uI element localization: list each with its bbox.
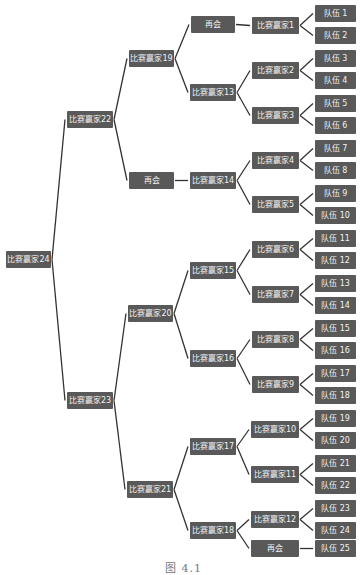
- team-node-t7: 队伍 7: [315, 140, 356, 157]
- bye-node-bye2: 再会: [191, 16, 235, 33]
- team-node-t15: 队伍 15: [315, 320, 356, 337]
- match-winner-node-w23: 比赛赢家23: [67, 392, 113, 409]
- match-winner-node-w19: 比赛赢家19: [129, 50, 174, 67]
- match-winner-node-w7: 比赛赢家7: [252, 286, 299, 303]
- team-node-t9: 队伍 9: [315, 185, 356, 202]
- match-winner-node-w11: 比赛赢家11: [251, 466, 299, 483]
- team-node-t10: 队伍 10: [315, 207, 356, 224]
- team-node-t1: 队伍 1: [315, 5, 356, 22]
- team-node-t6: 队伍 6: [315, 117, 356, 134]
- connector-w21-w18: [174, 490, 188, 531]
- connector-w18-w12: [237, 520, 249, 531]
- match-winner-node-w21: 比赛赢家21: [127, 481, 173, 498]
- team-node-t3: 队伍 3: [315, 50, 356, 67]
- match-winner-node-w2: 比赛赢家2: [252, 62, 299, 79]
- team-node-t17: 队伍 17: [315, 365, 356, 382]
- connector-w11-t21: [300, 464, 313, 475]
- team-node-t22: 队伍 22: [315, 477, 356, 494]
- team-node-t12: 队伍 12: [315, 252, 356, 269]
- team-node-t8: 队伍 8: [315, 162, 356, 179]
- match-winner-node-w17: 比赛赢家17: [190, 438, 236, 455]
- connector-w8-t15: [300, 329, 313, 340]
- connector-w20-w16: [174, 314, 188, 359]
- team-node-t16: 队伍 16: [315, 342, 356, 359]
- connector-bye2-w1: [236, 25, 250, 26]
- connector-w23-w21: [114, 401, 125, 490]
- connector-w3-t5: [300, 104, 313, 116]
- team-node-t24: 队伍 24: [315, 522, 356, 539]
- connector-w5-t9: [300, 194, 313, 205]
- connector-w23-w20: [114, 314, 126, 401]
- match-winner-node-w20: 比赛赢家20: [128, 305, 173, 322]
- connector-w14-w4: [237, 161, 250, 181]
- connector-w7-t13: [300, 284, 313, 295]
- connector-w1-t2: [300, 26, 313, 36]
- connector-w1-t1: [300, 14, 313, 26]
- connector-w15-w7: [237, 271, 250, 295]
- connector-w14-w5: [237, 181, 250, 205]
- match-winner-node-w5: 比赛赢家5: [252, 196, 299, 213]
- team-node-t18: 队伍 18: [315, 387, 356, 404]
- team-node-t2: 队伍 2: [315, 27, 356, 44]
- connector-w9-t17: [300, 374, 313, 385]
- match-winner-node-w18: 比赛赢家18: [190, 522, 236, 539]
- connector-w11-t22: [300, 475, 313, 486]
- connector-w22-w19: [114, 59, 127, 120]
- match-winner-node-w16: 比赛赢家16: [190, 350, 236, 367]
- connector-w9-t18: [300, 385, 313, 396]
- connector-w5-t10: [300, 205, 313, 216]
- connector-w2-t3: [300, 59, 313, 71]
- team-node-t13: 队伍 13: [315, 275, 356, 292]
- match-winner-node-w3: 比赛赢家3: [252, 107, 299, 124]
- bye-node-bye1: 再会: [129, 172, 174, 189]
- connector-w19-w13: [175, 59, 188, 93]
- connector-w10-t19: [300, 419, 313, 430]
- connector-w15-w6: [237, 250, 250, 271]
- connector-w16-w8: [237, 340, 250, 359]
- connector-w6-t12: [300, 250, 313, 261]
- connector-w4-t7: [300, 149, 313, 161]
- team-node-t4: 队伍 4: [315, 72, 356, 89]
- team-node-t25: 队伍 25: [315, 540, 356, 557]
- connector-w16-w9: [237, 359, 250, 385]
- match-winner-node-w15: 比赛赢家15: [190, 262, 236, 279]
- team-node-t23: 队伍 23: [315, 500, 356, 517]
- connector-w3-t6: [300, 116, 313, 126]
- connector-w24-w23: [52, 260, 65, 401]
- match-winner-node-w13: 比赛赢家13: [190, 84, 236, 101]
- connector-w8-t16: [300, 340, 313, 351]
- match-winner-node-w24: 比赛赢家24: [6, 251, 51, 268]
- connector-w21-w17: [174, 447, 188, 490]
- connector-w22-bye1: [114, 120, 127, 181]
- connector-w20-w15: [174, 271, 188, 314]
- match-winner-node-w14: 比赛赢家14: [190, 172, 236, 189]
- connector-w17-w10: [237, 430, 249, 447]
- team-node-t11: 队伍 11: [315, 230, 356, 247]
- figure-caption: 图 4.1: [165, 559, 202, 575]
- match-winner-node-w8: 比赛赢家8: [252, 331, 299, 348]
- bye-node-bye3: 再会: [251, 540, 299, 557]
- connector-w13-w3: [237, 93, 250, 116]
- connector-w7-t14: [300, 295, 313, 306]
- match-winner-node-w10: 比赛赢家10: [251, 421, 299, 438]
- connector-w24-w22: [52, 120, 65, 260]
- connector-w4-t8: [300, 161, 313, 171]
- connector-w17-w11: [237, 447, 249, 475]
- connector-w12-t23: [300, 509, 313, 520]
- connector-w6-t11: [300, 239, 313, 250]
- match-winner-node-w22: 比赛赢家22: [67, 111, 113, 128]
- match-winner-node-w6: 比赛赢家6: [252, 241, 299, 258]
- match-winner-node-w12: 比赛赢家12: [251, 511, 299, 528]
- team-node-t20: 队伍 20: [315, 432, 356, 449]
- connector-w12-t24: [300, 520, 313, 531]
- match-winner-node-w1: 比赛赢家1: [252, 17, 299, 34]
- match-winner-node-w9: 比赛赢家9: [252, 376, 299, 393]
- connector-w18-bye3: [237, 531, 249, 549]
- connector-w13-w2: [237, 71, 250, 93]
- connector-w19-bye2: [175, 25, 189, 59]
- connector-w10-t20: [300, 430, 313, 441]
- team-node-t14: 队伍 14: [315, 297, 356, 314]
- team-node-t5: 队伍 5: [315, 95, 356, 112]
